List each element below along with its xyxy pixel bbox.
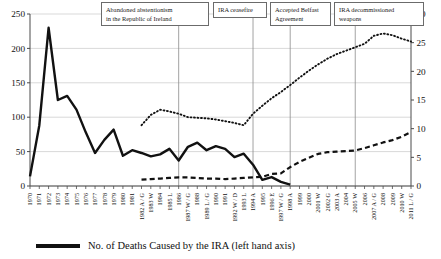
y-tick-label-right: 10	[417, 124, 427, 134]
series-dotted	[142, 33, 411, 125]
x-tick-label: 1981	[128, 193, 135, 205]
annotation-line-2: in the Republic of Ireland	[106, 15, 204, 24]
x-tick-label: 1973	[54, 193, 61, 205]
x-tick-label: 2003 A	[333, 192, 340, 211]
x-tick-label: 2007 A / G	[370, 192, 377, 220]
x-tick-label: 2010 W	[398, 193, 405, 213]
annotation-line-1: IRA decommissioned	[339, 6, 419, 15]
annotation-line-1: IRA ceasefire	[218, 6, 262, 15]
x-tick-label: 1983 W	[147, 193, 154, 213]
x-tick-label: 1982 A / G	[138, 192, 145, 220]
x-tick-label: 2004	[342, 193, 349, 205]
x-tick-label: 1975	[73, 193, 80, 205]
x-tick-label: 1976	[82, 193, 89, 205]
x-tick-label: 1989 L / G	[203, 192, 210, 219]
x-tick-label: 2008	[379, 193, 386, 205]
x-tick-label: 2009	[389, 193, 396, 205]
chart-legend: No. of Deaths Caused by the IRA (left ha…	[0, 240, 441, 251]
x-tick-label: 1996 E	[268, 193, 275, 211]
chart-canvas: 0501001502002500510152025301970197119721…	[0, 0, 441, 259]
x-tick-label: 2005 W	[351, 193, 358, 213]
x-tick-label: 2006	[361, 193, 368, 205]
x-tick-label: 2011 L / G	[407, 192, 414, 219]
x-tick-label: 1991	[221, 193, 228, 205]
x-tick-label: 1990	[212, 193, 219, 205]
y-tick-label-left: 150	[11, 78, 25, 88]
annotation-line-2: Agreement	[275, 15, 326, 24]
x-tick-label: 1979	[110, 193, 117, 205]
x-tick-label: 1970	[26, 193, 33, 205]
x-tick-label: 2002 G	[324, 192, 331, 211]
x-tick-label: 1993 L	[240, 193, 247, 211]
x-tick-label: 1971	[35, 193, 42, 205]
chart-figure: 0501001502002500510152025301970197119721…	[0, 0, 441, 259]
x-tick-label: 1988	[193, 193, 200, 205]
x-tick-label: 1986	[175, 193, 182, 205]
x-tick-label: 1984	[156, 193, 163, 205]
x-tick-label: 2000	[305, 193, 312, 205]
annotation-abandoned-abstentionism: Abandoned abstentionism in the Republic …	[101, 2, 209, 26]
annotation-line-1: Accepted Belfast	[275, 6, 326, 15]
y-tick-label-left: 100	[11, 112, 25, 122]
y-tick-label-right: 20	[417, 67, 427, 77]
x-tick-label: 1995	[259, 193, 266, 205]
x-tick-label: 1972	[45, 193, 52, 205]
annotation-ira-decommissioned-weapons: IRA decommissioned weapons	[334, 2, 424, 26]
annotation-line-2: weapons	[339, 15, 419, 24]
x-tick-label: 1985 L	[166, 193, 173, 211]
series-solid	[30, 28, 290, 185]
x-tick-label: 1994 A	[249, 192, 256, 211]
x-tick-label: 1977	[91, 193, 98, 205]
x-tick-label: 1978	[101, 193, 108, 205]
legend-swatch-deaths	[36, 244, 80, 248]
x-tick-label: 2001 W	[314, 193, 321, 213]
y-tick-label-right: 0	[417, 181, 422, 191]
x-tick-label: 1987 W / G	[184, 192, 191, 221]
x-tick-label: 1997 W / G	[277, 192, 284, 221]
y-tick-label-right: 25	[417, 38, 427, 48]
x-tick-label: 1999	[296, 193, 303, 205]
x-tick-label: 1992 W / D	[231, 192, 238, 221]
x-tick-label: 1998 A	[286, 192, 293, 211]
y-tick-label-right: 5	[417, 153, 422, 163]
y-tick-label-left: 200	[11, 44, 25, 54]
y-tick-label-left: 250	[11, 9, 25, 19]
y-tick-label-left: 0	[20, 181, 25, 191]
x-tick-label: 1980	[119, 193, 126, 205]
y-tick-label-right: 15	[417, 95, 427, 105]
legend-label-deaths: No. of Deaths Caused by the IRA (left ha…	[88, 240, 295, 251]
x-tick-label: 1974	[63, 193, 70, 205]
y-tick-label-left: 50	[16, 147, 26, 157]
annotation-accepted-belfast-agreement: Accepted Belfast Agreement	[270, 2, 331, 26]
annotation-ira-ceasefire: IRA ceasefire	[213, 2, 267, 18]
annotation-line-1: Abandoned abstentionism	[106, 6, 204, 15]
